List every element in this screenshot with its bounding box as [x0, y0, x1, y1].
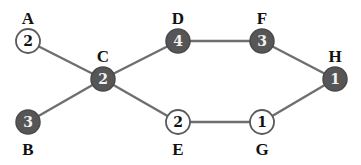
node-value: 1 — [330, 71, 340, 87]
node-layer: 2A3B2C4D2E3F1G1H — [16, 9, 347, 159]
node-e: 2E — [166, 110, 190, 159]
node-label: D — [172, 9, 184, 28]
node-f: 3F — [250, 9, 274, 53]
node-label: B — [22, 140, 33, 159]
node-label: G — [255, 140, 268, 159]
node-value: 1 — [257, 114, 267, 130]
node-b: 3B — [16, 110, 40, 159]
edge-b-c — [28, 79, 103, 122]
node-value: 2 — [98, 71, 108, 87]
edge-c-e — [103, 79, 178, 122]
node-h: 1H — [323, 47, 347, 91]
node-value: 3 — [23, 114, 33, 130]
node-label: F — [257, 9, 267, 28]
node-label: C — [97, 47, 109, 66]
network-graph: 2A3B2C4D2E3F1G1H — [0, 0, 361, 165]
node-value: 2 — [173, 114, 183, 130]
node-g: 1G — [250, 110, 274, 159]
node-label: H — [328, 47, 341, 66]
node-d: 4D — [166, 9, 190, 53]
node-a: 2A — [16, 9, 40, 53]
node-value: 4 — [173, 33, 183, 49]
node-value: 3 — [257, 33, 267, 49]
node-label: A — [22, 9, 35, 28]
node-label: E — [172, 140, 183, 159]
node-value: 2 — [23, 33, 33, 49]
node-c: 2C — [91, 47, 115, 91]
